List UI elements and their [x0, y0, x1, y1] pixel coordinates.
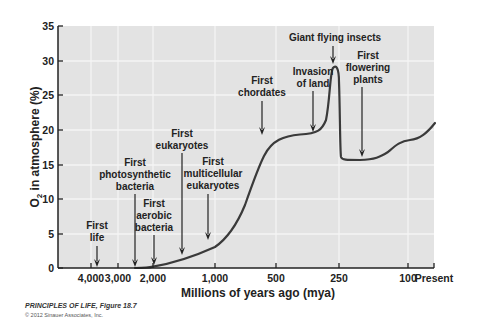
y-tick-label: 10 — [42, 193, 54, 205]
x-tick-label: 3,000 — [105, 272, 131, 284]
y-tick-label: 5 — [48, 228, 54, 240]
x-tick-label: 250 — [330, 272, 348, 284]
y-tick-label: 30 — [42, 55, 54, 67]
annotation-text: chordates — [238, 87, 286, 98]
x-tick-label: Present — [415, 272, 454, 284]
annotation-text: First — [143, 198, 165, 209]
x-tick-label: 1,000 — [202, 272, 228, 284]
x-tick-label: 4,000 — [78, 272, 104, 284]
annotation-text: First — [171, 128, 193, 139]
x-axis-title: Millions of years ago (mya) — [181, 286, 335, 300]
annotation-text: Giant flying insects — [289, 32, 382, 43]
annotation-text: flowering — [346, 62, 390, 73]
annotation-text: life — [90, 232, 105, 243]
annotation-text: multicellular — [184, 168, 243, 179]
y-tick-label: 0 — [48, 262, 54, 274]
annotation-text: Invasion — [293, 66, 334, 77]
y-tick-label: 25 — [42, 89, 54, 101]
y-tick-label: 20 — [42, 124, 54, 136]
figure-copyright: © 2012 Sinauer Associates, Inc. — [25, 312, 103, 318]
annotation-text: of land — [297, 78, 330, 89]
y-tick-label: 35 — [42, 20, 54, 32]
annotation-text: bacteria — [116, 181, 155, 192]
x-tick-label: 2,000 — [140, 272, 166, 284]
annotation-text: First — [357, 50, 379, 61]
annotation-text: eukaryotes — [156, 140, 209, 151]
annotation-text: First — [86, 220, 108, 231]
annotation-text: First — [202, 156, 224, 167]
annotation-text: eukaryotes — [187, 180, 240, 191]
annotation-text: bacteria — [135, 222, 174, 233]
annotation-text: First — [251, 75, 273, 86]
annotation-text: plants — [353, 74, 383, 85]
oxygen-chart: 35302520151050 4,0003,0002,0001,00050025… — [0, 0, 485, 325]
y-tick-label: 15 — [42, 159, 54, 171]
annotation-text: aerobic — [136, 210, 172, 221]
annotation-text: photosynthetic — [99, 169, 171, 180]
y-axis-title: O2 in atmosphere (%) — [28, 86, 44, 207]
annotation-text: First — [124, 157, 146, 168]
x-tick-label: 500 — [267, 272, 285, 284]
figure-credit-title: PRINCIPLES OF LIFE, Figure 18.7 — [25, 302, 137, 309]
